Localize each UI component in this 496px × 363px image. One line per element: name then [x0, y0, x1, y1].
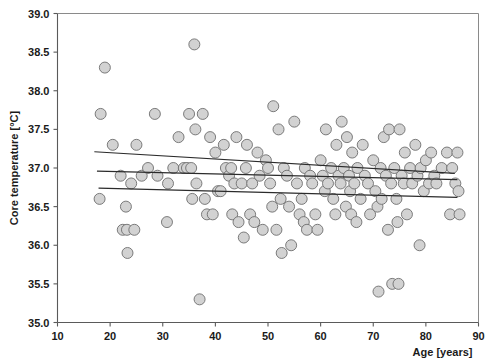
data-point — [391, 193, 402, 204]
data-point — [351, 217, 362, 228]
data-point — [328, 193, 339, 204]
data-point — [447, 163, 458, 174]
x-tick-label: 40 — [209, 330, 221, 342]
data-point — [241, 139, 252, 150]
data-point — [330, 209, 341, 220]
data-point — [286, 240, 297, 251]
y-tick-label: 39.0 — [28, 8, 49, 20]
data-point — [107, 139, 118, 150]
data-point — [168, 163, 179, 174]
data-point — [210, 147, 221, 158]
data-point — [275, 193, 286, 204]
data-point — [394, 124, 405, 135]
data-point — [99, 62, 110, 73]
data-point — [347, 147, 358, 158]
data-point — [414, 240, 425, 251]
data-point — [207, 209, 218, 220]
data-point — [249, 217, 260, 228]
y-tick-label: 35.0 — [28, 317, 49, 329]
y-tick-label: 35.5 — [28, 278, 49, 290]
data-point — [231, 132, 242, 143]
data-point — [120, 201, 131, 212]
scatter-plot-figure: 35.035.536.036.537.037.538.038.539.01020… — [0, 0, 496, 363]
data-point — [199, 193, 210, 204]
y-axis-title: Core temperature [°C] — [8, 110, 20, 225]
data-point — [401, 209, 412, 220]
data-point — [252, 147, 263, 158]
data-point — [373, 286, 384, 297]
data-point — [452, 147, 463, 158]
data-point — [357, 139, 368, 150]
y-tick-label: 37.0 — [28, 162, 49, 174]
x-tick-label: 20 — [104, 330, 116, 342]
data-point — [320, 124, 331, 135]
data-point — [336, 116, 347, 127]
x-tick-label: 80 — [420, 330, 432, 342]
data-point — [393, 278, 404, 289]
x-tick-label: 10 — [51, 330, 63, 342]
data-point — [131, 139, 142, 150]
data-point — [257, 224, 268, 235]
data-point — [126, 178, 137, 189]
data-point — [149, 108, 160, 119]
data-point — [265, 178, 276, 189]
data-point — [410, 139, 421, 150]
y-tick-label: 36.5 — [28, 201, 49, 213]
data-point — [218, 139, 229, 150]
data-point — [240, 163, 251, 174]
data-point — [384, 124, 395, 135]
data-point — [315, 155, 326, 166]
data-point — [238, 232, 249, 243]
data-point — [254, 170, 265, 181]
data-point — [399, 147, 410, 158]
data-point — [454, 209, 465, 220]
x-tick-label: 50 — [262, 330, 274, 342]
data-point — [441, 147, 452, 158]
data-point — [190, 124, 201, 135]
x-axis: 102030405060708090 — [51, 323, 484, 342]
data-point — [312, 224, 323, 235]
data-point — [301, 224, 312, 235]
data-point — [386, 178, 397, 189]
y-axis: 35.035.536.036.537.037.538.038.539.0 — [28, 8, 57, 329]
data-point — [94, 193, 105, 204]
x-tick-label: 30 — [157, 330, 169, 342]
data-point — [187, 193, 198, 204]
data-point — [129, 224, 140, 235]
data-point — [276, 247, 287, 258]
y-tick-label: 36.0 — [28, 239, 49, 251]
data-point — [95, 108, 106, 119]
data-point — [197, 108, 208, 119]
data-point — [426, 147, 437, 158]
y-tick-label: 38.0 — [28, 85, 49, 97]
data-point — [233, 217, 244, 228]
data-point — [335, 178, 346, 189]
x-tick-label: 60 — [315, 330, 327, 342]
data-point — [271, 224, 282, 235]
data-point — [184, 108, 195, 119]
y-tick-label: 37.5 — [28, 123, 49, 135]
data-point — [163, 178, 174, 189]
x-tick-label: 90 — [472, 330, 484, 342]
data-point — [289, 116, 300, 127]
data-point — [263, 163, 274, 174]
data-point — [291, 178, 302, 189]
data-point — [341, 132, 352, 143]
x-axis-title: Age [years] — [413, 346, 473, 358]
data-point — [205, 132, 216, 143]
data-point — [267, 201, 278, 212]
y-tick-label: 38.5 — [28, 46, 49, 58]
data-point — [194, 294, 205, 305]
data-point — [122, 247, 133, 258]
data-point — [191, 178, 202, 189]
data-point — [392, 217, 403, 228]
data-point — [186, 163, 197, 174]
data-point — [268, 101, 279, 112]
data-point — [349, 178, 360, 189]
data-point — [226, 163, 237, 174]
data-point — [296, 193, 307, 204]
data-point — [173, 132, 184, 143]
data-point — [161, 217, 172, 228]
data-point — [382, 224, 393, 235]
data-point — [273, 124, 284, 135]
